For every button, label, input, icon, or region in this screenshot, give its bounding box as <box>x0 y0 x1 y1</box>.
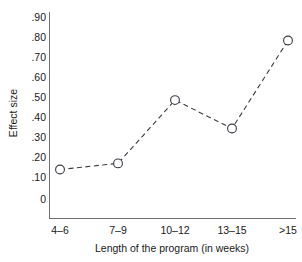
data-point-marker <box>56 165 65 174</box>
y-tick-label-7: .20 <box>31 151 46 163</box>
y-tick-label-2: .70 <box>31 51 46 63</box>
data-point-marker <box>171 96 180 105</box>
y-tick-label-4: .50 <box>31 91 46 103</box>
line-chart: .90 .80 .70 .60 .50 .40 .30 .20 .10 0 Ef… <box>0 0 302 262</box>
y-tick-label-8: .10 <box>31 171 46 183</box>
x-tick-label-3: 13–15 <box>217 224 246 236</box>
x-tick-label-4: >15 <box>279 224 297 236</box>
y-tick-label-6: .30 <box>31 131 46 143</box>
axis-lines <box>50 12 297 219</box>
x-tick-label-1: 7–9 <box>109 224 127 236</box>
x-tick-label-2: 10–12 <box>160 224 189 236</box>
y-tick-label-9: 0 <box>40 193 46 205</box>
data-point-marker <box>114 159 123 168</box>
x-tick-label-0: 4–6 <box>51 224 69 236</box>
y-tick-label-5: .40 <box>31 111 46 123</box>
y-axis-title: Effect size <box>7 89 19 137</box>
y-tick-label-3: .60 <box>31 71 46 83</box>
data-point-marker <box>228 124 237 133</box>
data-point-marker <box>284 36 293 45</box>
chart-figure: .90 .80 .70 .60 .50 .40 .30 .20 .10 0 Ef… <box>0 0 302 262</box>
series-line-effect-size <box>60 41 288 170</box>
y-tick-label-1: .80 <box>31 31 46 43</box>
x-axis-title: Length of the program (in weeks) <box>95 242 249 254</box>
y-tick-label-0: .90 <box>31 11 46 23</box>
